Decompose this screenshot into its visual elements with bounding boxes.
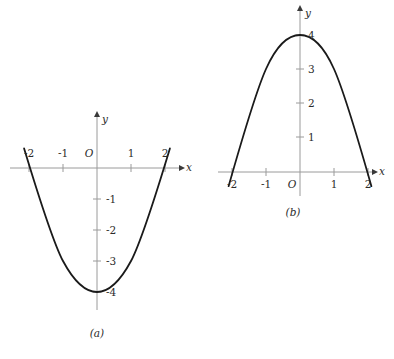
panel-b-ytick-label-1: 1 [308,131,315,143]
panel-a-xtick-label--2: -2 [24,147,34,159]
figure-container: -2 -1 1 2 -1 -2 -3 -4 O x y (a) [0,0,394,359]
panel-a-xtick-label-1: 1 [128,147,135,159]
panel-a-ytick-label--2: -2 [106,224,116,236]
panel-a-caption: (a) [90,327,104,339]
panel-b-xtick-label-1: 1 [331,178,338,190]
panel-b-ytick-label-2: 2 [308,97,315,109]
parabolas-figure: -2 -1 1 2 -1 -2 -3 -4 O x y (a) [0,0,394,359]
panel-b-xtick-label--1: -1 [261,178,271,190]
panel-b-caption: (b) [286,206,301,218]
panel-b-origin-label: O [288,178,297,190]
panel-a-ytick-label--4: -4 [106,286,117,298]
panel-b-x-axis-label: x [379,165,385,177]
panel-a-xtick-label-2: 2 [162,147,169,159]
panel-b-y-axis-label: y [304,7,312,19]
panel-a-ytick-label--3: -3 [106,255,116,267]
panel-a-ytick-label--1: -1 [106,193,116,205]
panel-b-xtick-label--2: -2 [227,178,237,190]
panel-b-ytick-label-3: 3 [308,63,315,75]
panel-b-xtick-label-2: 2 [365,178,372,190]
panel-b-ytick-label-4: 4 [308,29,315,41]
panel-a-x-axis-label: x [186,161,192,173]
panel-a-origin-label: O [85,147,94,159]
panel-a-y-axis-label: y [101,113,109,125]
panel-a-xtick-label--1: -1 [58,147,68,159]
